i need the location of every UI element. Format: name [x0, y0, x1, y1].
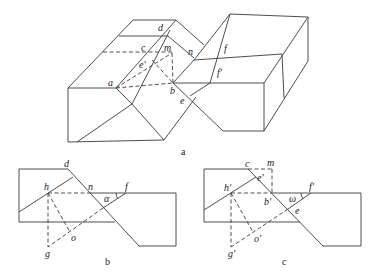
figure-b: d h n f α o g b	[19, 158, 176, 267]
c-angle-arc	[301, 193, 303, 199]
fault-line-be	[173, 83, 223, 131]
front-face-diagonal-right	[132, 104, 164, 140]
label-m: m	[164, 42, 171, 53]
right-block-left-lower	[173, 60, 194, 83]
c-label-e-prime: e'	[257, 172, 264, 183]
label-e-prime: e'	[139, 59, 146, 70]
label-f-prime: f'	[217, 67, 223, 78]
c-label-b-prime: b'	[264, 196, 272, 207]
caption-b: b	[105, 256, 110, 267]
fault-ridge-line	[116, 20, 176, 88]
c-label-omega: ω	[289, 193, 296, 204]
c-right-block-outline	[272, 193, 361, 246]
caption-a: a	[181, 146, 186, 157]
c-label-f-prime: f'	[309, 181, 315, 192]
c-left-block-outline	[204, 169, 300, 222]
figure-a: d c m n e' a b e f f' a	[68, 14, 308, 157]
left-block-bottom-edge	[68, 140, 164, 142]
b-label-h: h	[44, 181, 49, 192]
b-left-block-outline	[19, 169, 115, 222]
b-hidden-h-o	[48, 193, 70, 232]
c-label-h-prime: h'	[224, 182, 232, 193]
b-label-d: d	[64, 158, 70, 169]
b-label-g: g	[45, 248, 50, 259]
hidden-line-mb	[172, 53, 173, 83]
c-label-o-prime: o'	[254, 233, 262, 244]
label-e: e	[180, 95, 185, 106]
b-label-o: o	[71, 232, 76, 243]
diagram-canvas: d c m n e' a b e f f' a d h n f α o g b	[0, 0, 375, 280]
front-face-diagonal-left	[77, 104, 132, 142]
label-f: f	[224, 43, 228, 54]
right-block-top-right-diag	[264, 17, 308, 83]
c-label-m: m	[267, 157, 274, 168]
b-label-f: f	[125, 181, 129, 192]
caption-c: c	[282, 256, 287, 267]
c-label-e: e	[295, 205, 300, 216]
b-label-alpha: α	[104, 193, 110, 204]
b-angle-arc	[116, 193, 118, 199]
label-c: c	[141, 42, 146, 53]
label-n: n	[188, 46, 193, 57]
right-block-top-back	[230, 14, 308, 17]
hidden-line-ab	[116, 83, 173, 88]
right-block-bottom-right	[264, 61, 308, 131]
b-right-block-outline	[89, 193, 176, 246]
figure-c: c m e' h' b' f' ω e o' g' c	[204, 157, 361, 267]
c-hidden-h-o	[231, 193, 253, 232]
right-ridge-upper	[176, 20, 204, 45]
f-prime-line	[190, 83, 210, 96]
label-d: d	[158, 22, 164, 33]
c-label-g-prime: g'	[228, 248, 236, 259]
label-a: a	[108, 77, 113, 88]
right-block-inner-vertical	[282, 54, 284, 98]
label-b: b	[170, 85, 175, 96]
fault-lower-line	[116, 88, 132, 104]
b-label-n: n	[88, 181, 93, 192]
right-block-mid-line	[194, 54, 282, 60]
c-label-c: c	[245, 158, 250, 169]
